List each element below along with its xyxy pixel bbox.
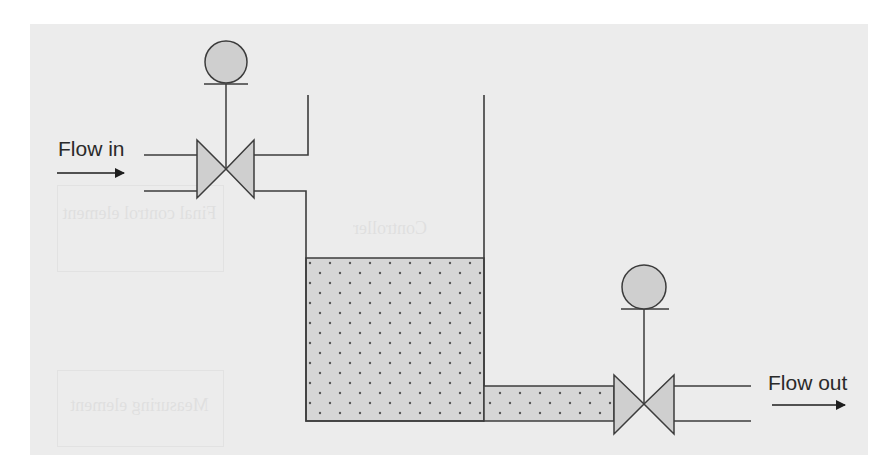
outlet-pipe [674, 386, 751, 421]
diaphragm-actuator-icon [205, 41, 247, 83]
flow-out-label: Flow out [768, 372, 847, 393]
inlet-control-valve[interactable] [197, 41, 254, 198]
inlet-pipe [144, 155, 197, 191]
tank-liquid [306, 258, 614, 421]
diaphragm-actuator-icon [622, 265, 666, 309]
outlet-control-valve[interactable] [614, 265, 674, 434]
flow-in-label: Flow in [58, 138, 125, 159]
process-diagram [0, 0, 891, 468]
